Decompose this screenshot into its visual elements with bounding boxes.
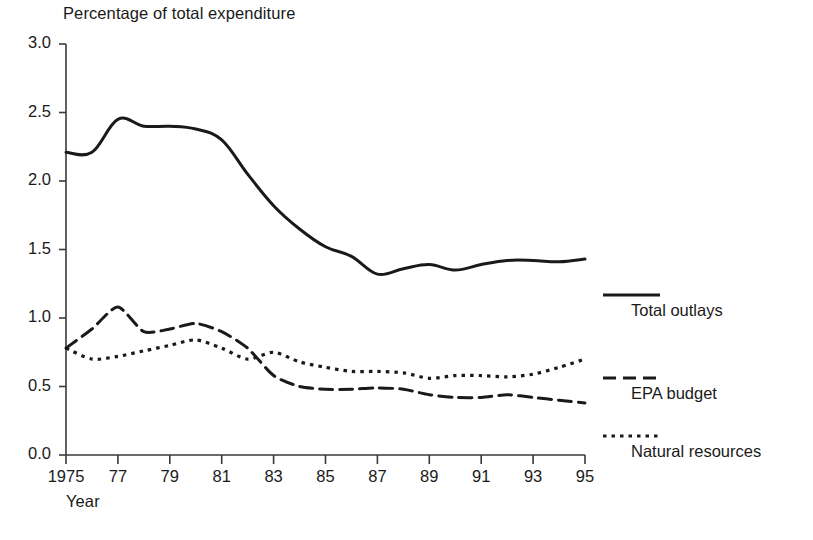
y-tick-label: 2.5 <box>3 102 51 121</box>
series-line-epa-budget <box>66 307 585 403</box>
x-axis-label: Year <box>66 492 100 511</box>
y-tick-label: 1.5 <box>3 239 51 258</box>
y-tick-label: 3.0 <box>3 33 51 52</box>
chart-ticks <box>59 44 585 464</box>
chart-figure: Percentage of total expenditure Year 3.0… <box>0 0 813 540</box>
series-line-natural-resources <box>66 340 585 378</box>
x-tick-label: 95 <box>555 467 615 486</box>
legend-label-epa-budget: EPA budget <box>631 384 717 403</box>
y-tick-label: 0.5 <box>3 376 51 395</box>
legend-label-total-outlays: Total outlays <box>631 301 723 320</box>
series-line-total-outlays <box>66 118 585 275</box>
legend-label-natural-resources: Natural resources <box>631 442 761 461</box>
y-tick-label: 2.0 <box>3 170 51 189</box>
chart-title: Percentage of total expenditure <box>63 4 295 23</box>
y-tick-label: 1.0 <box>3 307 51 326</box>
chart-series <box>66 118 585 403</box>
y-tick-label: 0.0 <box>3 444 51 463</box>
